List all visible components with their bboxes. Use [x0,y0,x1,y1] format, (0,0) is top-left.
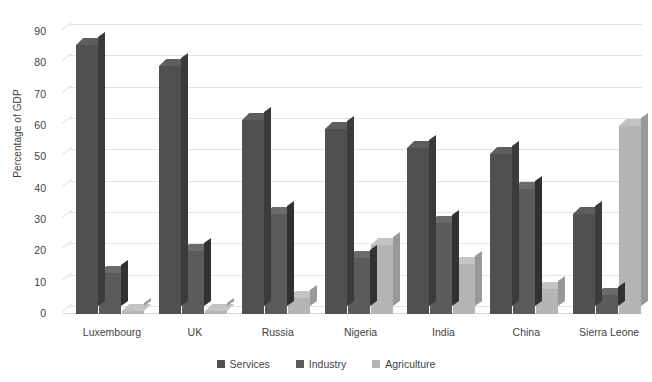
bar-front-face [76,45,98,314]
y-tick-label: 80 [6,56,46,68]
legend-item-agriculture[interactable]: Agriculture [372,358,435,370]
legend-label: Agriculture [385,358,435,370]
y-tick-label: 0 [6,307,46,319]
bar-side-face [121,260,128,306]
bar-side-face [264,107,271,306]
plot-area: 0102030405060708090 [62,24,642,314]
bar-side-face [535,176,542,306]
category-label-china: China [513,326,540,338]
bar-services-uk [159,66,181,314]
bar-group [490,24,566,314]
bar-side-face [204,238,211,306]
bar-side-face [512,141,519,306]
category-label-russia: Russia [262,326,294,338]
bar-chart: Percentage of GDP 0102030405060708090 Lu… [0,0,652,382]
chart-legend: ServicesIndustryAgriculture [0,358,652,370]
bar-side-face [98,31,105,306]
bar-services-china [490,154,512,314]
y-tick-label: 60 [6,119,46,131]
bar-side-face [347,116,354,306]
category-label-sierra-leone: Sierra Leone [579,326,639,338]
bar-group [242,24,318,314]
gridline-lead [62,304,72,312]
legend-item-industry[interactable]: Industry [296,358,346,370]
y-tick-label: 40 [6,182,46,194]
y-tick-label: 90 [6,25,46,37]
bar-front-face [325,129,347,314]
category-label-india: India [432,326,455,338]
bar-front-face [407,148,429,314]
bar-services-russia [242,120,264,314]
bar-front-face [205,311,227,314]
bar-side-face [310,285,317,306]
bar-side-face [595,201,602,306]
bar-front-face [490,154,512,314]
bar-front-face [122,311,144,314]
bar-agriculture-uk [205,311,227,314]
bar-group [325,24,401,314]
bar-side-face [429,135,436,306]
legend-item-services[interactable]: Services [217,358,270,370]
y-tick-label: 70 [6,88,46,100]
bar-front-face [242,120,264,314]
bar-front-face [159,66,181,314]
bar-side-face [641,113,648,306]
y-tick-label: 10 [6,276,46,288]
bar-side-face [181,53,188,306]
bar-side-face [287,201,294,306]
bar-group [573,24,649,314]
bar-side-face [475,251,482,306]
bar-services-luxembourg [76,45,98,314]
bar-group [76,24,152,314]
bar-group [159,24,235,314]
category-label-luxembourg: Luxembourg [83,326,141,338]
bar-top-face [205,304,234,311]
bar-services-sierra-leone [573,214,595,314]
legend-swatch-icon [372,360,380,368]
category-label-uk: UK [188,326,203,338]
bar-services-nigeria [325,129,347,314]
legend-swatch-icon [217,360,225,368]
bar-top-face [122,304,151,311]
bar-services-india [407,148,429,314]
bar-side-face [370,245,377,306]
bar-side-face [393,232,400,306]
y-tick-label: 50 [6,150,46,162]
bar-group [407,24,483,314]
bar-front-face [573,214,595,314]
y-tick-label: 30 [6,213,46,225]
legend-label: Industry [309,358,346,370]
bar-side-face [558,276,565,306]
y-tick-label: 20 [6,244,46,256]
bar-side-face [452,210,459,306]
legend-label: Services [230,358,270,370]
legend-swatch-icon [296,360,304,368]
category-label-nigeria: Nigeria [344,326,377,338]
bar-agriculture-luxembourg [122,311,144,314]
